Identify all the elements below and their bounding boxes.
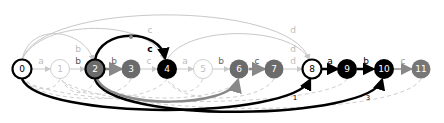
arc-label-0-2: b — [75, 44, 81, 54]
edge-label-3-4: c — [147, 56, 152, 66]
edge-label-1-2: b — [75, 56, 81, 66]
node-9[interactable]: 9 — [337, 59, 357, 79]
node-7[interactable]: 7 — [265, 60, 284, 79]
node-11[interactable]: 11 — [412, 60, 431, 79]
arc-label-0-8-bottom: 1 — [293, 94, 297, 102]
node-1[interactable]: 1 — [51, 60, 70, 79]
node-7-label: 7 — [271, 64, 277, 74]
node-1-label: 1 — [57, 64, 63, 74]
top-arcs — [22, 15, 309, 60]
diagram-canvas: 0 1 2 3 4 5 6 7 8 9 10 11 a b b c a b c … — [0, 0, 444, 123]
node-0[interactable]: 0 — [13, 60, 32, 79]
edge-sublabel-8-9: 1 — [328, 67, 332, 75]
arc-label-0-4: c — [148, 25, 153, 35]
arc-midpoint-dot — [129, 35, 133, 39]
node-3[interactable]: 3 — [122, 60, 141, 79]
edge-label-6-7: c — [255, 56, 260, 66]
edge-label-0-1: a — [38, 56, 44, 66]
node-6-label: 6 — [236, 64, 242, 74]
node-5[interactable]: 5 — [194, 60, 213, 79]
node-0-label: 0 — [19, 64, 25, 74]
node-5-label: 5 — [200, 64, 206, 74]
arc-2-4-bold — [95, 36, 165, 60]
node-8[interactable]: 8 — [303, 60, 322, 79]
node-10[interactable]: 10 — [374, 59, 394, 79]
edge-label-8-9: a — [327, 56, 333, 66]
node-8-label: 8 — [309, 64, 315, 74]
node-9-label: 9 — [344, 64, 350, 74]
automaton-diagram: 0 1 2 3 4 5 6 7 8 9 10 11 a b b c a b c … — [0, 0, 444, 123]
node-2[interactable]: 2 — [86, 60, 105, 79]
failure-link-5-4 — [170, 79, 203, 91]
edge-label-5-6: b — [218, 56, 224, 66]
arc-label-4-8: d — [290, 44, 296, 54]
arc-label-2-10-bottom: 3 — [366, 94, 370, 102]
node-3-label: 3 — [128, 64, 134, 74]
arc-4-8 — [167, 34, 309, 60]
node-2-label: 2 — [92, 64, 98, 74]
node-4[interactable]: 4 — [157, 59, 177, 79]
edge-sublabel-9-10: 2 — [364, 67, 368, 75]
edge-label-9-10: b — [363, 56, 369, 66]
node-10-label: 10 — [378, 64, 390, 74]
arc-0-8 — [22, 15, 309, 60]
edge-label-2-3: b — [111, 56, 117, 66]
edge-label-10-11: c — [401, 56, 406, 66]
node-6[interactable]: 6 — [230, 60, 249, 79]
arc-label-2-4: c — [147, 44, 152, 54]
edge-label-7-8: d — [290, 56, 296, 66]
arc-label-0-8: d — [290, 25, 296, 35]
node-4-label: 4 — [164, 64, 170, 74]
edge-label-4-5: a — [182, 56, 188, 66]
node-11-label: 11 — [415, 64, 426, 74]
